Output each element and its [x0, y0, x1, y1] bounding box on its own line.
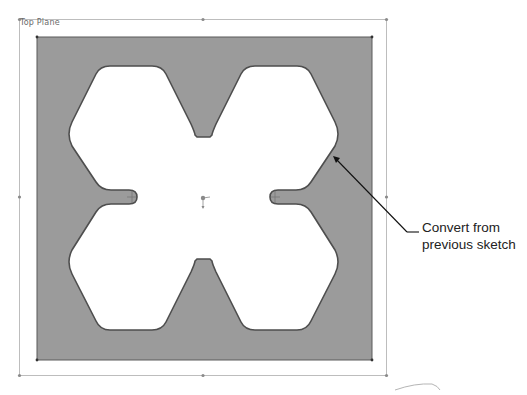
- sketch-canvas[interactable]: [0, 0, 527, 395]
- frame-handle-ml[interactable]: [18, 195, 21, 198]
- callout-line-2: previous sketch: [422, 236, 516, 253]
- callout-annotation: Convert from previous sketch: [422, 219, 516, 253]
- frame-handle-tr[interactable]: [385, 18, 388, 21]
- callout-line-1: Convert from: [422, 219, 516, 236]
- page-curl-decoration: [395, 384, 440, 390]
- plane-label: Top Plane: [20, 18, 60, 27]
- sketch-origin-icon[interactable]: [201, 196, 210, 209]
- frame-handle-br[interactable]: [385, 374, 388, 377]
- frame-handle-bl[interactable]: [18, 374, 21, 377]
- frame-handle-tm[interactable]: [201, 18, 204, 21]
- frame-handle-bm[interactable]: [201, 374, 204, 377]
- frame-handle-mr[interactable]: [385, 195, 388, 198]
